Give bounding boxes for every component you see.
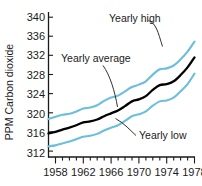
x-tick-label: 1974	[154, 166, 178, 178]
y-tick-label: 336	[27, 30, 45, 42]
x-axis-tick-labels: 1958 1962 1966 1970 1974 1978	[43, 166, 202, 178]
y-tick-label: 316	[27, 127, 45, 139]
x-tick-label: 1962	[71, 166, 95, 178]
annotation-yearly-high: Yearly high	[109, 12, 161, 24]
chart-canvas: PPM Carbon dioxide 340 336 332 328 324 3…	[0, 0, 202, 186]
y-tick-label: 320	[27, 108, 45, 120]
y-tick-label: 312	[27, 147, 45, 159]
x-tick-label: 1958	[43, 166, 67, 178]
x-tick-label: 1970	[127, 166, 151, 178]
y-tick-label: 324	[27, 88, 45, 100]
x-tick-label: 1978	[182, 166, 202, 178]
y-tick-label: 340	[27, 11, 45, 23]
y-tick-label: 328	[27, 69, 45, 81]
co2-chart: PPM Carbon dioxide 340 336 332 328 324 3…	[0, 0, 202, 186]
y-axis-title: PPM Carbon dioxide	[3, 44, 15, 140]
annotation-yearly-average: Yearly average	[61, 52, 131, 64]
x-tick-label: 1966	[99, 166, 123, 178]
y-tick-label: 332	[27, 49, 45, 61]
annotation-yearly-low: Yearly low	[139, 129, 187, 141]
